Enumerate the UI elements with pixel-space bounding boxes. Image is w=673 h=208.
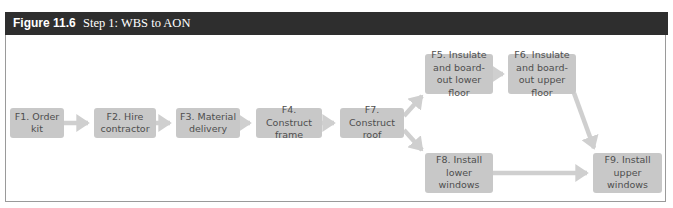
- node-label: F9. Install upper windows: [595, 154, 660, 192]
- node-f4-construct-frame: F4. Construct frame: [256, 108, 322, 138]
- node-label: F6. Insulate and board-out upper floor: [510, 49, 574, 99]
- edge-f6-f9: [574, 93, 594, 148]
- node-label: F2. Hire contractor: [96, 111, 154, 136]
- node-f6-insulate-upper-floor: F6. Insulate and board-out upper floor: [508, 54, 576, 94]
- edges-layer: [0, 0, 673, 208]
- node-label: F3. Material delivery: [178, 111, 238, 136]
- node-label: F1. Order kit: [12, 111, 62, 136]
- node-f5-insulate-lower-floor: F5. Insulate and board-out lower floor: [425, 54, 493, 94]
- node-f7-construct-roof: F7. Construct roof: [340, 108, 404, 138]
- node-f8-install-lower-windows: F8. Install lower windows: [425, 153, 493, 193]
- node-label: F7. Construct roof: [342, 104, 402, 142]
- edge-f7-f8: [404, 130, 422, 150]
- node-label: F5. Insulate and board-out lower floor: [427, 49, 491, 99]
- node-f3-material-delivery: F3. Material delivery: [176, 108, 240, 138]
- edge-f7-f5: [404, 96, 422, 116]
- node-label: F4. Construct frame: [258, 104, 320, 142]
- node-f2-hire-contractor: F2. Hire contractor: [94, 108, 156, 138]
- node-f9-install-upper-windows: F9. Install upper windows: [593, 153, 662, 193]
- node-f1-order-kit: F1. Order kit: [10, 108, 64, 138]
- node-label: F8. Install lower windows: [427, 154, 491, 192]
